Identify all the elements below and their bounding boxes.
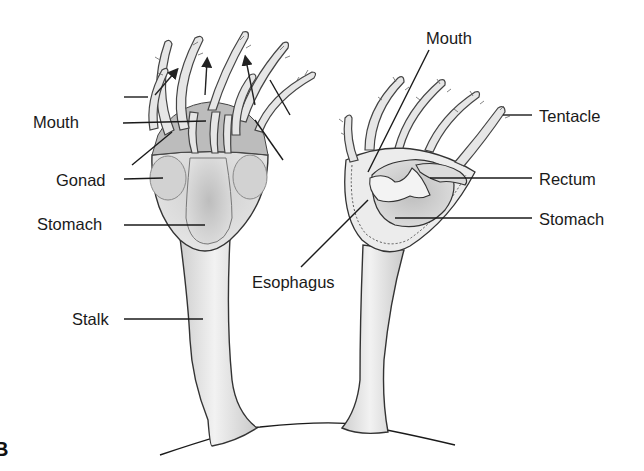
right-tentacle	[344, 115, 358, 162]
flow-arrow	[205, 62, 207, 95]
left-inner-tentacle	[188, 112, 198, 153]
label-esophagus: Esophagus	[252, 273, 335, 291]
right-specimen	[339, 77, 510, 434]
diagram-canvas: Mouth Gonad Stomach Stalk Mouth T	[0, 0, 644, 471]
leader-gonad	[124, 178, 163, 179]
left-gonad-right	[233, 155, 267, 199]
label-stomach-right: Stomach	[539, 210, 604, 228]
label-stalk: Stalk	[72, 310, 109, 328]
right-stalk	[342, 245, 404, 433]
right-tentacle	[455, 107, 505, 166]
label-gonad: Gonad	[56, 171, 106, 189]
label-mouth-left: Mouth	[33, 113, 79, 131]
figure-letter: B	[0, 438, 8, 460]
left-stalk	[180, 238, 257, 446]
label-stomach-left: Stomach	[37, 215, 102, 233]
label-tentacle: Tentacle	[539, 107, 600, 125]
left-inner-tentacle	[224, 115, 233, 153]
label-rectum: Rectum	[539, 170, 596, 188]
label-mouth-right: Mouth	[426, 29, 472, 47]
substrate-line	[160, 423, 455, 455]
left-specimen	[124, 32, 316, 446]
left-stomach	[186, 158, 232, 244]
